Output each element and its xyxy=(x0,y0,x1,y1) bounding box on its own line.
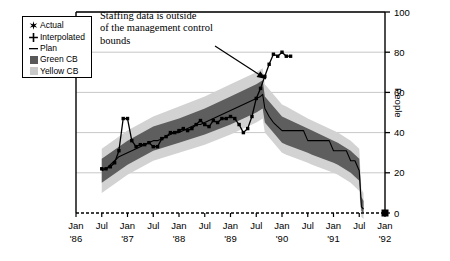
legend-label-green-cb: Green CB xyxy=(40,55,78,64)
x-tick-year: '86 xyxy=(70,233,82,244)
chart-root: Jan'86JulJan'87JulJan'88JulJan'89JulJan'… xyxy=(0,0,450,261)
legend-label-interpolated: Interpolated xyxy=(40,33,85,42)
legend-label-plan: Plan xyxy=(40,44,57,53)
x-tick-month: Jul xyxy=(147,220,159,231)
x-tick-month: Jan xyxy=(326,220,341,231)
x-axis-ticks: Jan'86JulJan'87JulJan'88JulJan'89JulJan'… xyxy=(68,213,392,244)
dash-line-icon xyxy=(27,43,40,54)
y-axis-label: People xyxy=(393,88,404,118)
legend-item-actual: Actual xyxy=(27,20,88,31)
legend-label-actual: Actual xyxy=(40,21,64,30)
x-tick-year: '90 xyxy=(276,233,288,244)
x-tick-year: '87 xyxy=(121,233,133,244)
x-tick-year: '92 xyxy=(379,233,391,244)
x-tick-month: Jul xyxy=(302,220,314,231)
x-tick-month: Jul xyxy=(96,220,108,231)
x-tick-month: Jan xyxy=(223,220,238,231)
x-tick-month: Jul xyxy=(250,220,262,231)
annotation-line-3: bounds xyxy=(100,35,250,47)
y-tick-label: 0 xyxy=(394,208,399,219)
x-tick-month: Jul xyxy=(199,220,211,231)
chart-legend: Actual Interpolated Plan Green CB Yellow… xyxy=(22,16,92,78)
plus-marker-icon xyxy=(27,32,40,43)
y-tick-label: 100 xyxy=(394,7,410,18)
x-tick-month: Jan xyxy=(171,220,186,231)
y-tick-label: 80 xyxy=(394,47,405,58)
annotation-arrow xyxy=(215,46,266,79)
x-tick-month: Jan xyxy=(68,220,83,231)
x-tick-month: Jul xyxy=(353,220,365,231)
legend-item-yellow-cb: Yellow CB xyxy=(27,66,88,77)
yellow-cb-swatch-icon xyxy=(27,66,40,77)
x-tick-year: '91 xyxy=(327,233,339,244)
legend-label-yellow-cb: Yellow CB xyxy=(40,67,78,76)
y-tick-label: 40 xyxy=(394,127,405,138)
annotation-line-1: Staffing data is outside xyxy=(100,10,250,22)
x-tick-year: '89 xyxy=(224,233,236,244)
x-tick-year: '88 xyxy=(173,233,185,244)
x-tick-month: Jan xyxy=(377,220,392,231)
star-marker-icon xyxy=(27,20,40,31)
annotation-line-2: of the management control xyxy=(100,22,250,34)
legend-item-green-cb: Green CB xyxy=(27,54,88,65)
green-cb-swatch-icon xyxy=(27,54,40,65)
legend-item-interpolated: Interpolated xyxy=(27,31,88,42)
x-tick-month: Jan xyxy=(274,220,289,231)
legend-item-plan: Plan xyxy=(27,43,88,54)
x-tick-month: Jan xyxy=(120,220,135,231)
y-tick-label: 20 xyxy=(394,167,405,178)
annotation-text: Staffing data is outside of the manageme… xyxy=(100,10,250,47)
